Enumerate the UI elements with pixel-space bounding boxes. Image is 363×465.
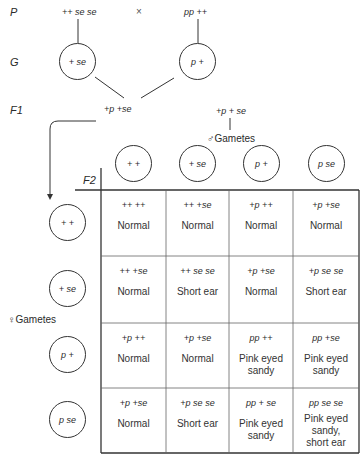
cell-phenotype: Pink eyed sandy (301, 353, 351, 377)
cell-phenotype: Short ear (305, 286, 346, 298)
gamete-genotype: + + (127, 159, 140, 169)
f1-label: F1 (10, 104, 23, 116)
female-gametes-label: ♀Gametes (8, 314, 56, 325)
cell-phenotype: Normal (181, 353, 213, 365)
gamete-genotype: p + (61, 350, 74, 360)
gamete-genotype: p + (255, 159, 268, 169)
cell-phenotype: Normal (245, 220, 277, 232)
gamete-genotype: + se (59, 284, 76, 294)
gamete-genotype: p se (318, 159, 335, 169)
gamete-genotype: + se (69, 57, 86, 67)
gamete-genotype: p se (59, 415, 76, 425)
parents-label: P (10, 6, 17, 18)
gamete-genotype: + + (61, 218, 74, 228)
cell-phenotype: Normal (181, 220, 213, 232)
punnett-cell: ++ se seShort ear (166, 256, 229, 323)
cell-phenotype: Normal (117, 353, 149, 365)
cell-genotype: pp ++ (249, 333, 272, 343)
gamete-genotype: + se (189, 159, 206, 169)
cell-genotype: +p ++ (249, 200, 272, 210)
gamete-right-to-f1-line (141, 78, 174, 98)
punnett-cell: pp + sePink eyed sandy (229, 388, 293, 453)
cell-genotype: pp +se (312, 333, 339, 343)
punnett-cell: ++ +seNormal (166, 190, 229, 256)
cell-genotype: ++ ++ (122, 200, 146, 210)
cell-phenotype: Short ear (177, 418, 218, 430)
cell-phenotype: Normal (245, 286, 277, 298)
cell-phenotype: Normal (117, 286, 149, 298)
cell-phenotype: Normal (117, 220, 149, 232)
punnett-cell: +p +seNormal (101, 388, 166, 453)
punnett-cell: +p ++Normal (229, 190, 293, 256)
punnett-cell: +p ++Normal (101, 323, 166, 388)
gametes-label: G (10, 56, 19, 68)
f1-left-genotype: +p +se (104, 104, 132, 114)
punnett-cell: +p +seNormal (166, 323, 229, 388)
female-gamete-circle: + + (49, 204, 86, 241)
male-gamete-circle: p + (243, 145, 280, 182)
cell-genotype: +p ++ (122, 333, 145, 343)
parent-left-genotype: ++ se se (62, 7, 97, 17)
female-gamete-circle: p + (49, 336, 86, 373)
parent-right-genotype: pp ++ (184, 7, 207, 17)
punnett-cell: ++ +seNormal (101, 256, 166, 323)
cell-genotype: ++ +se (120, 266, 148, 276)
male-gamete-circle: + + (115, 145, 152, 182)
gamete-left-to-f1-line (95, 77, 124, 98)
arrowhead-icon (47, 194, 53, 200)
f2-label: F2 (83, 174, 96, 186)
cell-genotype: +p +se (120, 398, 148, 408)
cell-genotype: +p +se (184, 333, 212, 343)
cell-genotype: ++ se se (180, 266, 215, 276)
male-gamete-circle: p se (308, 145, 345, 182)
cell-genotype: ++ +se (184, 200, 212, 210)
cell-genotype: +p se se (180, 398, 214, 408)
f1-right-genotype: +p + se (216, 106, 246, 116)
punnett-cell: +p se seShort ear (293, 256, 359, 323)
female-gamete-circle: + se (49, 270, 86, 307)
cell-genotype: pp se se (309, 398, 343, 408)
cell-phenotype: Normal (310, 220, 342, 232)
cross-symbol: × (136, 6, 142, 17)
cell-phenotype: Normal (117, 418, 149, 430)
cell-genotype: pp + se (246, 398, 276, 408)
parent-gamete-right: p + (179, 43, 216, 80)
punnett-cell: +p +seNormal (229, 256, 293, 323)
cell-phenotype: Pink eyed sandy (236, 353, 286, 377)
cell-genotype: +p +se (247, 266, 275, 276)
punnett-cell: +p +seNormal (293, 190, 359, 256)
cell-phenotype: Pink eyed sandy, short ear (300, 413, 352, 449)
cell-phenotype: Pink eyed sandy (236, 418, 286, 442)
parent-gamete-left: + se (59, 43, 96, 80)
cell-genotype: +p se se (309, 266, 343, 276)
punnett-cell: pp +sePink eyed sandy (293, 323, 359, 388)
punnett-cell: ++ ++Normal (101, 190, 166, 256)
cell-genotype: +p +se (312, 200, 340, 210)
punnett-cell: +p se seShort ear (166, 388, 229, 453)
gamete-genotype: p + (191, 57, 204, 67)
cell-phenotype: Short ear (177, 286, 218, 298)
punnett-cell: pp ++Pink eyed sandy (229, 323, 293, 388)
female-gamete-circle: p se (49, 401, 86, 438)
male-gametes-label: ♂Gametes (207, 133, 255, 144)
punnett-cell: pp se sePink eyed sandy, short ear (293, 388, 359, 453)
male-gamete-circle: + se (179, 145, 216, 182)
